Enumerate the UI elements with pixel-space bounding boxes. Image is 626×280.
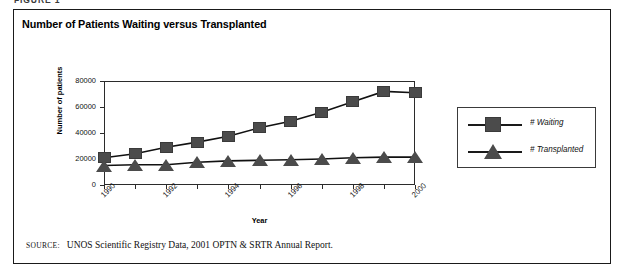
legend-item-waiting: # Waiting	[458, 114, 597, 136]
data-point-triangle	[189, 156, 205, 168]
data-point-square	[284, 116, 297, 127]
x-tick-mark	[135, 185, 136, 189]
x-tick-mark	[384, 185, 385, 189]
data-point-square	[160, 142, 173, 153]
legend-item-transplanted: # Transplanted	[458, 141, 597, 163]
source-note: Source:UNOS Scientific Registry Data, 20…	[26, 240, 333, 250]
data-point-triangle	[314, 153, 330, 165]
data-point-square	[409, 87, 422, 98]
data-point-square	[377, 86, 390, 97]
x-tick-mark	[197, 185, 198, 189]
data-point-triangle	[252, 154, 268, 166]
data-point-triangle	[283, 154, 299, 166]
data-point-square	[253, 122, 266, 133]
data-point-triangle	[376, 151, 392, 163]
data-point-square	[346, 96, 359, 107]
data-point-triangle	[345, 152, 361, 164]
data-point-triangle	[96, 160, 112, 172]
data-point-square	[129, 148, 142, 159]
square-marker-icon	[485, 117, 501, 132]
chart-legend: # Waiting # Transplanted	[457, 107, 596, 168]
triangle-marker-icon	[484, 144, 502, 159]
source-kicker: Source:	[26, 241, 60, 250]
data-point-square	[222, 131, 235, 142]
legend-item-label: # Transplanted	[530, 144, 583, 154]
x-tick-mark	[260, 185, 261, 189]
data-point-square	[315, 107, 328, 118]
source-text: UNOS Scientific Registry Data, 2001 OPTN…	[67, 240, 333, 250]
x-axis-title: Year	[115, 216, 404, 225]
data-point-triangle	[158, 159, 174, 171]
data-point-square	[191, 137, 204, 148]
data-point-triangle	[127, 159, 143, 171]
data-point-triangle	[407, 151, 423, 163]
legend-item-label: # Waiting	[530, 117, 564, 127]
x-tick-mark	[322, 185, 323, 189]
data-point-triangle	[220, 155, 236, 167]
